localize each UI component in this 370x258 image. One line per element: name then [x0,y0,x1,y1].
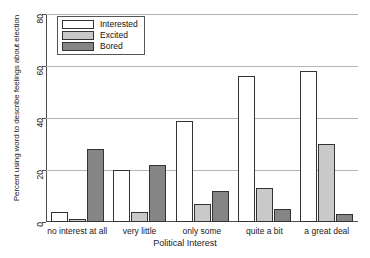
x-tick-label: quite a bit [233,226,295,236]
bar-excited [194,204,211,222]
bar-excited [69,219,86,222]
y-tick-label-80: 80 [36,14,44,23]
x-tick-label: only some [171,226,233,236]
chart-legend: Interested Excited Bored [57,16,145,55]
bar-group [176,14,229,222]
bar-interested [176,121,193,222]
bar-interested [238,76,255,222]
legend-item-bored: Bored [62,42,138,51]
bar-bored [212,191,229,222]
y-axis-title: Percent using word to describe feelings … [12,3,22,213]
legend-label-excited: Excited [100,31,128,40]
bar-group [238,14,291,222]
x-tick-label: a great deal [296,226,358,236]
x-tick-label: no interest at all [46,226,108,236]
y-tick-label-60: 60 [36,66,44,75]
bar-group [300,14,353,222]
bar-bored [274,209,291,222]
bar-chart: Percent using word to describe feelings … [0,0,370,258]
bar-interested [300,71,317,222]
bar-bored [336,214,353,222]
x-tick-label: very little [108,226,170,236]
x-axis-title: Political Interest [0,238,370,249]
bar-interested [51,212,68,222]
bar-bored [87,149,104,222]
bar-bored [149,165,166,222]
legend-label-bored: Bored [100,42,123,51]
legend-swatch-interested [62,20,94,29]
y-tick-label-20: 20 [36,170,44,179]
y-tick-label-0: 0 [36,222,44,227]
bar-excited [131,212,148,222]
bar-excited [256,188,273,222]
legend-swatch-bored [62,42,94,51]
legend-swatch-excited [62,31,94,40]
legend-item-excited: Excited [62,31,138,40]
bar-excited [318,144,335,222]
y-tick-label-40: 40 [36,118,44,127]
bar-interested [113,170,130,222]
legend-item-interested: Interested [62,20,138,29]
legend-label-interested: Interested [100,20,138,29]
